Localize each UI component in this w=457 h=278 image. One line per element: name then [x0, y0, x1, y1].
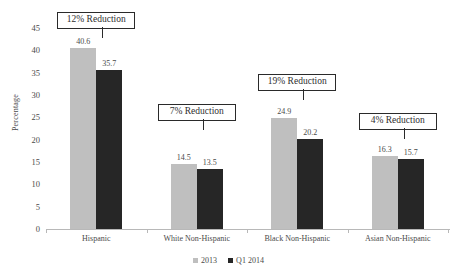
bar-value-label: 20.2 [303, 128, 317, 137]
y-axis-tick-5: 5 [0, 202, 40, 212]
legend-swatch-icon [193, 258, 198, 263]
reduction-callout: 7% Reduction [158, 104, 236, 121]
bar[interactable]: 24.9 [271, 118, 297, 229]
bar-value-label: 16.3 [378, 145, 392, 154]
y-axis-tick-10: 10 [0, 179, 40, 189]
bar[interactable]: 15.7 [398, 159, 424, 229]
bar-chart: Percentage 051015202530354045 40.635.714… [0, 0, 457, 278]
bar[interactable]: 13.5 [197, 169, 223, 229]
callout-leader-line [203, 119, 204, 130]
x-axis-tick [448, 229, 449, 233]
x-axis-tick [348, 229, 349, 233]
x-axis-category-label: White Non-Hispanic [147, 234, 248, 243]
bar-value-label: 15.7 [404, 148, 418, 157]
chart-legend: 2013Q1 2014 [0, 256, 457, 265]
x-axis-category-label: Asian Non-Hispanic [348, 234, 449, 243]
bar[interactable]: 40.6 [70, 48, 96, 229]
y-axis-tick-labels: 051015202530354045 [0, 0, 46, 278]
x-axis-line [46, 229, 450, 230]
bar[interactable]: 35.7 [96, 70, 122, 229]
y-axis-tick-35: 35 [0, 68, 40, 78]
y-axis-tick-45: 45 [0, 23, 40, 33]
legend-item[interactable]: 2013 [193, 256, 217, 265]
bar-group: 24.920.2 [247, 28, 348, 229]
reduction-callout: 19% Reduction [258, 74, 336, 91]
bar[interactable]: 20.2 [297, 139, 323, 229]
x-axis-tick [147, 229, 148, 233]
callout-leader-line [303, 89, 304, 100]
legend-swatch-icon [228, 258, 233, 263]
bar[interactable]: 14.5 [171, 164, 197, 229]
x-axis-category-label: Hispanic [46, 234, 147, 243]
y-axis-tick-20: 20 [0, 135, 40, 145]
bar-value-label: 13.5 [203, 158, 217, 167]
x-axis-tick [247, 229, 248, 233]
reduction-callout: 12% Reduction [57, 12, 135, 29]
legend-item[interactable]: Q1 2014 [228, 256, 264, 265]
legend-label: 2013 [201, 256, 217, 265]
reduction-callout: 4% Reduction [359, 113, 437, 130]
callout-leader-line [102, 27, 103, 38]
bar-group-bars: 24.920.2 [247, 28, 348, 229]
bar-value-label: 40.6 [76, 37, 90, 46]
x-axis-tick [46, 229, 47, 233]
y-axis-tick-15: 15 [0, 157, 40, 167]
y-axis-tick-30: 30 [0, 90, 40, 100]
legend-label: Q1 2014 [236, 256, 264, 265]
callout-leader-line [404, 128, 405, 139]
bar-group: 14.513.5 [147, 28, 248, 229]
y-axis-tick-0: 0 [0, 224, 40, 234]
bar-group: 40.635.7 [46, 28, 147, 229]
bar-value-label: 24.9 [277, 107, 291, 116]
bar-value-label: 35.7 [102, 59, 116, 68]
y-axis-tick-25: 25 [0, 112, 40, 122]
bar-group-bars: 40.635.7 [46, 28, 147, 229]
bar[interactable]: 16.3 [372, 156, 398, 229]
bar-group-bars: 14.513.5 [147, 28, 248, 229]
x-axis-category-label: Black Non-Hispanic [247, 234, 348, 243]
y-axis-tick-40: 40 [0, 45, 40, 55]
bar-value-label: 14.5 [177, 153, 191, 162]
